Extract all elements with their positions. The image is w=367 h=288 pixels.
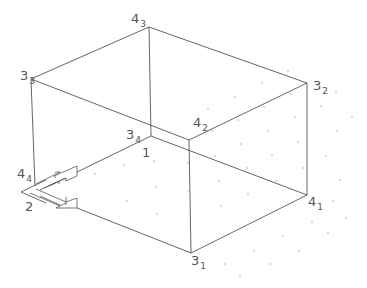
face-label-2: 2: [25, 199, 33, 214]
edge-3_3-4_4: [31, 79, 35, 186]
edge-4_3-3_2: [149, 27, 307, 83]
label-3_3: 33: [20, 68, 35, 86]
edge-4_2-3_1: [189, 140, 191, 253]
edge-3_1-4_1: [191, 195, 307, 253]
label-3_1: 31: [191, 253, 206, 271]
edge-3_3-4_2: [31, 79, 189, 140]
edge-3_3-4_3: [31, 27, 149, 79]
edge-4_4-3_1: [77, 208, 191, 253]
grid-dots: [94, 70, 352, 276]
box-diagram: 43 33 32 42 34 44 41 31 1 2: [0, 0, 367, 288]
label-4_2: 42: [193, 115, 208, 133]
face-label-1: 1: [142, 145, 150, 160]
label-3_4: 34: [126, 127, 141, 145]
edge-4_3-3_4: [149, 27, 151, 136]
edge-3_4-4_1: [151, 136, 307, 195]
vertex-labels: 43 33 32 42 34 44 41 31 1 2: [17, 11, 328, 271]
label-4_3: 43: [131, 11, 146, 29]
edge-left-corner-upper: [21, 180, 46, 192]
arrow-upper-inner-icon: [44, 178, 66, 188]
label-4_1: 41: [308, 194, 323, 212]
arrow-upper-outer-icon: [36, 166, 77, 190]
label-3_2: 32: [313, 78, 328, 96]
label-4_4: 44: [17, 166, 32, 184]
double-arrow-icons: [30, 166, 77, 208]
box-edges: [21, 27, 307, 253]
